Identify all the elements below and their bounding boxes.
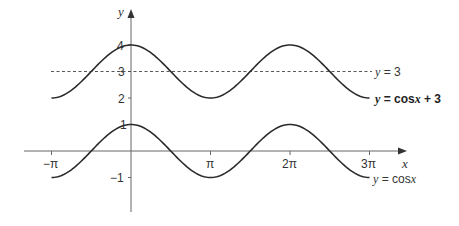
tick-label-2pi: 2π — [282, 157, 297, 171]
tick-label-neg1: −1 — [110, 171, 124, 185]
tick-label-3pi: 3π — [361, 157, 376, 171]
tick-label-pi: π — [206, 157, 214, 171]
x-axis-arrow-icon — [398, 148, 407, 155]
y-axis-label: y — [116, 4, 124, 19]
tick-label-4: 4 — [117, 39, 124, 53]
tick-label-3: 3 — [118, 65, 125, 79]
y-axis-arrow-icon — [128, 9, 135, 18]
tick-label-neg-pi: −π — [43, 157, 58, 171]
chart-canvas: y x −π π 2π 3π 4 3 2 1 −1 y = 3 y = cosx… — [0, 0, 459, 226]
x-ticks — [52, 151, 370, 155]
legend-y-equals-3: y = 3 — [374, 65, 401, 79]
tick-label-1: 1 — [120, 118, 127, 132]
legend-cos: y = cosx — [372, 172, 417, 186]
legend-cos-plus-3: y = cosx + 3 — [373, 92, 441, 106]
tick-label-2: 2 — [118, 92, 125, 106]
x-axis-label: x — [401, 156, 408, 171]
